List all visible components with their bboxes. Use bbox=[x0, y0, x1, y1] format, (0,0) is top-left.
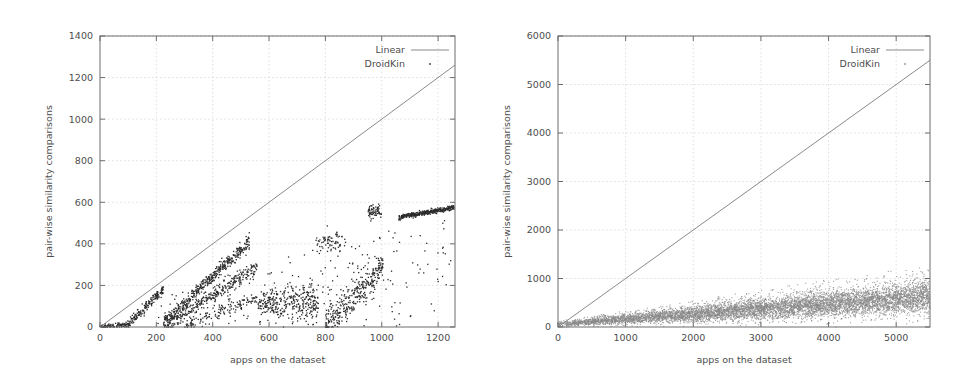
data-point bbox=[151, 297, 152, 298]
data-point bbox=[317, 308, 318, 309]
data-point bbox=[302, 285, 303, 286]
data-point bbox=[889, 309, 890, 310]
data-point bbox=[261, 306, 262, 307]
data-point bbox=[293, 290, 294, 291]
data-point bbox=[278, 317, 279, 318]
data-point bbox=[576, 323, 577, 324]
data-point bbox=[823, 316, 824, 317]
data-point bbox=[823, 298, 824, 299]
y-tick-label: 1200 bbox=[69, 72, 93, 83]
data-point bbox=[265, 303, 266, 304]
data-point bbox=[176, 303, 177, 304]
data-point bbox=[436, 213, 437, 214]
data-point bbox=[267, 300, 268, 301]
data-point bbox=[830, 304, 831, 305]
data-point bbox=[329, 245, 330, 246]
data-point bbox=[855, 311, 856, 312]
data-point bbox=[852, 300, 853, 301]
y-tick-label: 0 bbox=[545, 321, 551, 332]
data-point bbox=[682, 308, 683, 309]
data-point bbox=[604, 316, 605, 317]
data-point bbox=[790, 304, 791, 305]
data-point bbox=[877, 309, 878, 310]
data-point bbox=[800, 306, 801, 307]
data-point bbox=[277, 311, 278, 312]
data-point bbox=[732, 306, 733, 307]
data-point bbox=[684, 310, 685, 311]
data-point bbox=[761, 297, 762, 298]
data-point bbox=[865, 320, 866, 321]
data-point bbox=[897, 304, 898, 305]
data-point bbox=[798, 302, 799, 303]
data-point bbox=[906, 303, 907, 304]
data-point bbox=[888, 310, 889, 311]
data-point bbox=[844, 312, 845, 313]
data-point bbox=[261, 314, 262, 315]
data-point bbox=[399, 242, 400, 243]
data-point bbox=[189, 316, 190, 317]
data-point bbox=[367, 254, 368, 255]
data-point bbox=[884, 304, 885, 305]
data-point bbox=[761, 315, 762, 316]
data-point bbox=[714, 316, 715, 317]
data-point bbox=[695, 315, 696, 316]
data-point bbox=[806, 295, 807, 296]
data-point bbox=[683, 320, 684, 321]
data-point bbox=[857, 303, 858, 304]
data-point bbox=[819, 310, 820, 311]
data-point bbox=[168, 324, 169, 325]
data-point bbox=[784, 294, 785, 295]
data-point bbox=[790, 315, 791, 316]
data-point bbox=[415, 216, 416, 217]
data-point bbox=[823, 304, 824, 305]
data-point bbox=[355, 297, 356, 298]
data-point bbox=[376, 258, 377, 259]
data-point bbox=[901, 297, 902, 298]
data-point bbox=[838, 298, 839, 299]
data-point bbox=[860, 304, 861, 305]
data-point bbox=[772, 319, 773, 320]
data-point bbox=[371, 218, 372, 219]
data-point bbox=[824, 294, 825, 295]
data-point bbox=[928, 293, 929, 294]
data-point bbox=[913, 303, 914, 304]
data-point bbox=[924, 282, 925, 283]
data-point bbox=[191, 311, 192, 312]
data-point bbox=[781, 303, 782, 304]
data-point bbox=[858, 304, 859, 305]
data-point bbox=[895, 294, 896, 295]
data-point bbox=[335, 241, 336, 242]
data-point bbox=[379, 262, 380, 263]
data-point bbox=[376, 270, 377, 271]
data-point bbox=[258, 304, 259, 305]
data-point bbox=[561, 322, 562, 323]
data-point bbox=[869, 298, 870, 299]
data-point bbox=[689, 313, 690, 314]
data-point bbox=[624, 316, 625, 317]
data-point bbox=[721, 317, 722, 318]
data-point bbox=[117, 324, 118, 325]
data-point bbox=[632, 316, 633, 317]
data-point bbox=[754, 296, 755, 297]
data-point bbox=[711, 315, 712, 316]
data-point bbox=[796, 306, 797, 307]
data-point bbox=[666, 321, 667, 322]
data-point bbox=[597, 318, 598, 319]
data-point bbox=[875, 285, 876, 286]
data-point bbox=[700, 311, 701, 312]
data-point bbox=[347, 318, 348, 319]
data-point bbox=[797, 309, 798, 310]
data-point bbox=[780, 317, 781, 318]
data-point bbox=[894, 319, 895, 320]
data-point bbox=[157, 323, 158, 324]
data-point bbox=[647, 315, 648, 316]
data-point bbox=[358, 292, 359, 293]
data-point bbox=[763, 307, 764, 308]
data-point bbox=[275, 299, 276, 300]
data-point bbox=[157, 291, 158, 292]
data-point bbox=[233, 279, 234, 280]
data-point bbox=[811, 293, 812, 294]
data-point bbox=[327, 225, 328, 226]
data-point bbox=[193, 291, 194, 292]
data-point bbox=[789, 285, 790, 286]
